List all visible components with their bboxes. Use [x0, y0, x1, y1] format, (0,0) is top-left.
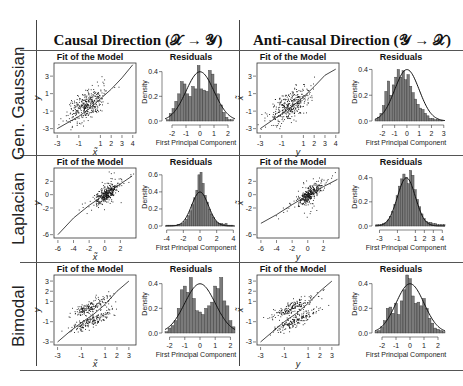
svg-text:-2: -2 [180, 235, 186, 242]
svg-text:3: 3 [442, 130, 446, 137]
svg-text:0.0: 0.0 [148, 223, 158, 230]
svg-text:3: 3 [120, 140, 124, 147]
svg-text:-3: -3 [257, 140, 263, 147]
svg-text:0.4: 0.4 [148, 68, 158, 75]
svg-text:-1: -1 [393, 342, 399, 349]
svg-text:0.0: 0.0 [358, 118, 368, 125]
svg-text:3: 3 [248, 73, 252, 80]
svg-text:2: 2 [248, 288, 252, 295]
svg-text:y: y [295, 147, 301, 157]
fit-title: Fit of the Model [247, 264, 339, 274]
left-divider [36, 20, 37, 366]
lap-causal-res: 0.00.20.40.6-4-2024First Principal Compo… [145, 168, 237, 270]
svg-text:-6: -6 [258, 245, 264, 252]
svg-text:First Principal Component: First Principal Component [366, 351, 447, 359]
svg-text:0: 0 [103, 245, 107, 252]
svg-text:y: y [295, 252, 301, 262]
svg-text:-6: -6 [43, 231, 49, 238]
svg-text:2: 2 [215, 235, 219, 242]
svg-text:-3: -3 [54, 352, 60, 359]
svg-text:-2: -2 [379, 130, 385, 137]
fit-title: Fit of the Model [44, 52, 136, 62]
svg-text:4: 4 [334, 140, 338, 147]
svg-text:2: 2 [226, 130, 230, 137]
lap-anti-fit: -6-4-202-6-202yx̃ [247, 168, 339, 268]
svg-text:First Principal Component: First Principal Component [156, 244, 237, 252]
residuals-title: Residuals [145, 52, 237, 62]
svg-text:1: 1 [212, 130, 216, 137]
svg-text:2: 2 [321, 245, 325, 252]
svg-text:-1: -1 [246, 318, 252, 325]
svg-text:1: 1 [45, 298, 49, 305]
svg-text:2: 2 [228, 342, 232, 349]
column-header-anticausal: Anti-causal Direction (𝒴 → 𝒳) [241, 32, 463, 49]
svg-text:0.4: 0.4 [148, 280, 158, 287]
svg-text:Density: Density [141, 80, 149, 104]
bi-causal-fit: -3-1123-3-1123x̃y [44, 275, 136, 375]
svg-text:-4: -4 [70, 245, 76, 252]
svg-text:1: 1 [413, 235, 417, 242]
gg-anti-fit: -3-11234-3-113yx̃ [247, 63, 339, 163]
svg-text:3: 3 [45, 73, 49, 80]
residuals-title: Residuals [145, 264, 237, 274]
svg-text:0.0: 0.0 [358, 223, 368, 230]
svg-text:Density: Density [351, 80, 359, 104]
svg-text:0: 0 [306, 245, 310, 252]
svg-text:y: y [32, 307, 42, 313]
svg-text:0: 0 [198, 235, 202, 242]
svg-text:0.4: 0.4 [148, 188, 158, 195]
svg-text:0.0: 0.0 [148, 118, 158, 125]
svg-text:0: 0 [248, 191, 252, 198]
bi-anti-fit: -3-1123-3-1123yx̃ [247, 275, 339, 375]
svg-text:0.6: 0.6 [148, 171, 158, 178]
svg-text:Density: Density [351, 292, 359, 316]
svg-text:-3: -3 [246, 338, 252, 345]
svg-text:-3: -3 [43, 338, 49, 345]
svg-text:1: 1 [45, 90, 49, 97]
svg-text:0: 0 [198, 130, 202, 137]
svg-text:-6: -6 [55, 245, 61, 252]
svg-text:-2: -2 [166, 342, 172, 349]
svg-text:0.4: 0.4 [358, 280, 368, 287]
lap-anti-res: 0.00.20.4-3-11234First Principal Compone… [355, 168, 447, 270]
svg-text:2: 2 [436, 342, 440, 349]
gg-causal-res: 0.00.20.4-2-1012First Principal Componen… [145, 63, 237, 165]
svg-text:-4: -4 [164, 235, 170, 242]
bi-causal-res: 0.00.20.4-2-1012First Principal Componen… [145, 275, 237, 377]
svg-text:First Principal Component: First Principal Component [156, 139, 237, 147]
svg-text:1: 1 [248, 90, 252, 97]
svg-text:0: 0 [45, 191, 49, 198]
fit-title: Fit of the Model [44, 157, 136, 167]
gg-causal-fit: -3-11234-3-113x̃y [44, 63, 136, 163]
residuals-title: Residuals [145, 157, 237, 167]
svg-text:y: y [32, 200, 42, 206]
svg-text:2: 2 [318, 352, 322, 359]
svg-text:-2: -2 [246, 205, 252, 212]
svg-text:0.2: 0.2 [148, 93, 158, 100]
header-rule [20, 50, 463, 51]
svg-text:0.0: 0.0 [358, 330, 368, 337]
residuals-title: Residuals [355, 52, 447, 62]
svg-text:-4: -4 [273, 245, 279, 252]
svg-text:0.0: 0.0 [148, 330, 158, 337]
svg-text:3: 3 [248, 278, 252, 285]
svg-text:2: 2 [248, 178, 252, 185]
fit-title: Fit of the Model [247, 157, 339, 167]
row-label-laplacian: Laplacian [4, 157, 34, 261]
svg-text:-1: -1 [394, 235, 400, 242]
svg-text:-2: -2 [169, 130, 175, 137]
svg-text:1: 1 [422, 342, 426, 349]
svg-text:-2: -2 [289, 245, 295, 252]
svg-text:3: 3 [431, 235, 435, 242]
column-header-causal: Causal Direction (𝒳 → 𝒴) [40, 32, 236, 49]
svg-text:-1: -1 [182, 342, 188, 349]
svg-text:-2: -2 [86, 245, 92, 252]
svg-text:1: 1 [248, 298, 252, 305]
svg-text:-1: -1 [279, 140, 285, 147]
svg-text:2: 2 [118, 245, 122, 252]
gg-anti-res: 0.00.20.4-2-10123First Principal Compone… [355, 63, 447, 165]
svg-text:0: 0 [198, 342, 202, 349]
center-divider [239, 20, 240, 366]
svg-text:1: 1 [417, 130, 421, 137]
svg-text:1: 1 [306, 352, 310, 359]
